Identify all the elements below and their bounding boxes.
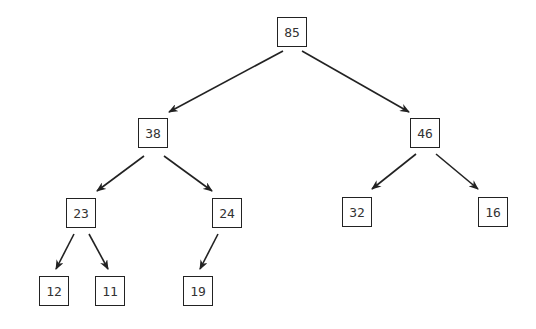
tree-node-19: 19 <box>183 276 213 306</box>
tree-node-12: 12 <box>39 276 69 306</box>
node-label: 23 <box>73 206 89 221</box>
edge-arrow-85-to-38 <box>169 51 283 112</box>
node-label: 24 <box>219 206 235 221</box>
edge-arrow-24-to-19 <box>200 234 218 269</box>
node-label: 46 <box>417 126 433 141</box>
edge-arrow-38-to-23 <box>97 156 144 191</box>
node-label: 32 <box>349 205 365 220</box>
tree-node-38: 38 <box>138 118 168 148</box>
node-label: 12 <box>46 284 62 299</box>
node-label: 38 <box>145 126 161 141</box>
edge-arrow-46-to-32 <box>372 154 416 189</box>
node-label: 16 <box>485 205 501 220</box>
binary-tree-diagram: 85384623243216121119 <box>0 0 536 329</box>
tree-node-23: 23 <box>66 198 96 228</box>
tree-node-11: 11 <box>95 276 125 306</box>
tree-node-24: 24 <box>212 198 242 228</box>
edge-arrow-46-to-16 <box>436 154 478 189</box>
edge-arrow-23-to-11 <box>89 234 108 269</box>
node-label: 19 <box>190 284 206 299</box>
tree-edges <box>0 0 536 329</box>
tree-node-46: 46 <box>410 118 440 148</box>
node-label: 85 <box>284 25 300 40</box>
edge-arrow-38-to-24 <box>164 156 212 191</box>
edge-arrow-23-to-12 <box>56 234 74 269</box>
tree-node-32: 32 <box>342 197 372 227</box>
tree-node-85: 85 <box>277 17 307 47</box>
node-label: 11 <box>102 284 118 299</box>
tree-node-16: 16 <box>478 197 508 227</box>
edge-arrow-85-to-46 <box>302 51 409 112</box>
